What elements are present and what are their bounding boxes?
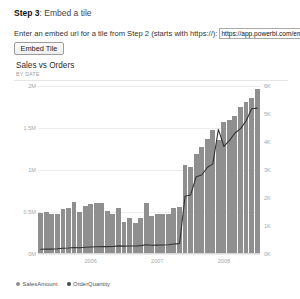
x-axis-tick-label: 2006 xyxy=(84,258,96,264)
legend-label: OrderQuantity xyxy=(73,281,110,287)
chart-bar xyxy=(221,122,226,254)
y-axis-right-labels: 0K1K2K3K4K5K6K xyxy=(263,86,285,254)
y-axis-left-labels: 0M0.5M1M1.5M2M xyxy=(14,86,36,254)
chart-bar xyxy=(116,208,121,254)
embed-tile-button[interactable]: Embed Tile xyxy=(14,42,64,55)
x-axis-line xyxy=(38,253,260,254)
chart-bar xyxy=(138,218,143,254)
chart-bar xyxy=(232,116,237,254)
y-axis-tick-label: 0M xyxy=(28,251,36,257)
gridline xyxy=(38,254,260,255)
chart-bar xyxy=(194,154,199,254)
chart-bar xyxy=(55,214,60,254)
chart-bar xyxy=(94,203,99,254)
chart-bar xyxy=(160,214,165,254)
chart-subtitle: BY DATE xyxy=(16,71,40,77)
chart-bar xyxy=(188,167,193,254)
page-title: Step 3: Embed a tile xyxy=(14,8,92,18)
chart-bar xyxy=(177,207,182,254)
chart-bar xyxy=(49,214,54,254)
step-label: Step 3 xyxy=(14,8,40,18)
chart-bar xyxy=(166,214,171,254)
y2-axis-tick-label: 5K xyxy=(264,111,271,117)
step-title: Embed a tile xyxy=(44,8,91,18)
y-axis-tick-label: 1M xyxy=(28,167,36,173)
tile-divider xyxy=(14,80,288,81)
chart-bar xyxy=(244,102,249,254)
x-axis-labels: 200620072008 xyxy=(38,258,260,268)
chart-bar xyxy=(88,204,93,254)
chart-bar xyxy=(61,209,66,254)
chart-bar xyxy=(205,139,210,255)
chart-bar xyxy=(105,211,110,254)
chart-legend: SalesAmountOrderQuantity xyxy=(16,279,110,289)
embed-url-row: Enter an embed url for a tile from Step … xyxy=(14,27,296,40)
y2-axis-tick-label: 0K xyxy=(264,251,271,257)
y-axis-tick-label: 0.5M xyxy=(24,209,36,215)
legend-item[interactable]: SalesAmount xyxy=(16,281,58,287)
chart-bar xyxy=(77,212,82,254)
chart-bar xyxy=(255,89,260,254)
x-axis-tick-label: 2007 xyxy=(151,258,163,264)
chart-bar xyxy=(66,208,71,254)
y2-axis-tick-label: 2K xyxy=(264,195,271,201)
chart-bar xyxy=(155,214,160,254)
chart-bar xyxy=(210,130,215,254)
chart-bar xyxy=(44,212,49,255)
chart-bar xyxy=(144,203,149,254)
legend-swatch-icon xyxy=(16,282,20,286)
chart-bar xyxy=(83,206,88,254)
y-axis-tick-label: 1.5M xyxy=(24,125,36,131)
x-axis-tick-label: 2008 xyxy=(218,258,230,264)
chart-plot-area xyxy=(38,86,260,254)
legend-swatch-icon xyxy=(67,282,71,286)
chart-bar xyxy=(171,208,176,254)
embed-url-label: Enter an embed url for a tile from Step … xyxy=(14,27,217,40)
embed-url-input[interactable] xyxy=(219,28,300,39)
embed-tile-page: Step 3: Embed a tile Enter an embed url … xyxy=(0,0,300,299)
chart-tile[interactable]: Sales vs Orders BY DATE 0M0.5M1M1.5M2M 0… xyxy=(8,60,292,294)
chart-bar xyxy=(72,202,77,254)
chart-bar xyxy=(38,213,43,254)
chart-bar xyxy=(216,140,221,254)
chart-bar xyxy=(183,165,188,254)
chart-bar xyxy=(110,214,115,254)
chart-bar xyxy=(149,216,154,254)
chart-bar xyxy=(238,107,243,254)
chart-bar xyxy=(99,203,104,254)
chart-bar xyxy=(227,120,232,254)
chart-title: Sales vs Orders xyxy=(16,61,74,70)
chart-bar xyxy=(133,223,138,254)
y2-axis-tick-label: 6K xyxy=(264,83,271,89)
y2-axis-tick-label: 3K xyxy=(264,167,271,173)
y2-axis-tick-label: 1K xyxy=(264,223,271,229)
y-axis-tick-label: 2M xyxy=(28,83,36,89)
chart-bar xyxy=(249,98,254,254)
chart-bar xyxy=(199,147,204,254)
y2-axis-tick-label: 4K xyxy=(264,139,271,145)
chart-bar xyxy=(122,222,127,254)
bar-series xyxy=(38,86,260,254)
step-separator: : xyxy=(40,8,42,18)
legend-item[interactable]: OrderQuantity xyxy=(67,281,111,287)
legend-label: SalesAmount xyxy=(23,281,58,287)
chart-bar xyxy=(127,218,132,254)
